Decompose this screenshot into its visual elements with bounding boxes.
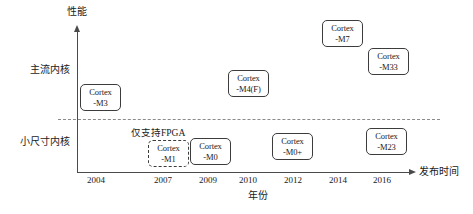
core-box-line2: -M7 [323,34,362,45]
band-label-mainstream: 主流内核 [0,64,70,76]
x-axis-title: 发布时间 [419,166,459,178]
x-tick-label: 2014 [318,175,358,186]
band-label-small-size: 小尺寸内核 [0,136,70,148]
core-box-line2: -M23 [367,142,406,153]
core-box-line1: Cortex [323,23,362,34]
y-axis-title: 性能 [67,6,87,18]
core-box-line1: Cortex [191,141,230,152]
x-axis-arrow-icon [409,169,416,175]
core-box-line2: -M1 [149,154,188,165]
core-box-cortex-m3: Cortex-M3 [80,84,121,111]
core-box-cortex-m33: Cortex-M33 [368,48,409,75]
core-box-line2: -M0 [191,152,230,163]
core-box-line2: -M0+ [273,147,312,158]
y-axis-line [77,32,78,173]
core-box-line2: -M33 [369,62,408,73]
x-tick-label: 2009 [188,175,228,186]
core-box-line1: Cortex [273,136,312,147]
performance-timeline-chart: 性能 发布时间 年份 主流内核 小尺寸内核 仅支持FPGA 2004200720… [0,0,473,214]
core-box-line1: Cortex [367,131,406,142]
core-box-cortex-m0: Cortex-M0+ [272,133,313,160]
x-tick-label: 2010 [228,175,268,186]
core-box-cortex-m1: Cortex-M1 [148,140,189,167]
core-box-cortex-m0: Cortex-M0 [190,138,231,165]
core-box-cortex-m23: Cortex-M23 [366,128,407,155]
x-axis-line [77,172,410,173]
x-tick-label: 2007 [143,175,183,186]
x-tick-label: 2004 [76,175,116,186]
x-tick-label: 2012 [273,175,313,186]
core-box-line2: -M4(F) [229,84,268,95]
x-tick-label: 2016 [362,175,402,186]
band-divider-line [58,119,440,120]
y-axis-arrow-icon [74,25,80,32]
fpga-only-annotation: 仅支持FPGA [131,128,185,139]
core-box-line1: Cortex [369,51,408,62]
core-box-line1: Cortex [149,143,188,154]
x-axis-label: 年份 [233,190,283,202]
core-box-line2: -M3 [81,98,120,109]
core-box-line1: Cortex [229,73,268,84]
core-box-cortex-m7: Cortex-M7 [322,20,363,47]
core-box-line1: Cortex [81,87,120,98]
core-box-cortex-m4-f: Cortex-M4(F) [228,70,269,97]
